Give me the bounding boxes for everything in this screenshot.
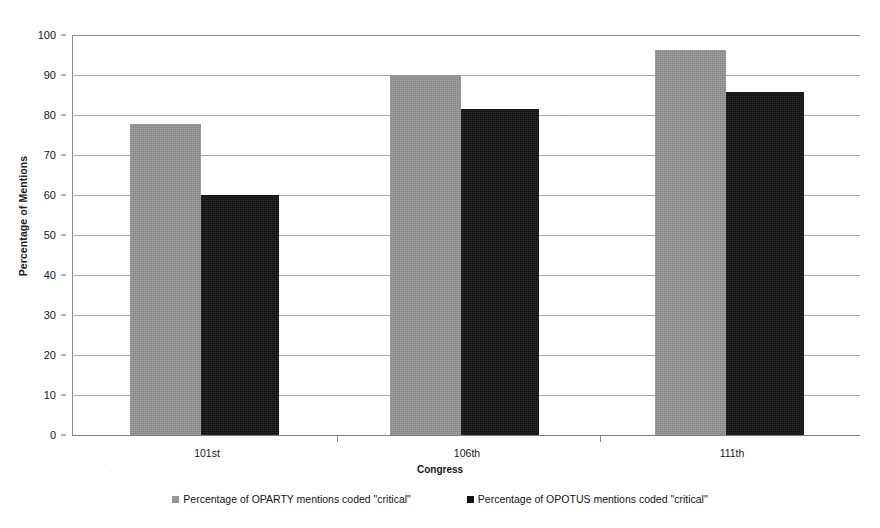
y-tick-label-20: 20 [44,349,56,361]
y-tick-label-80: 80 [44,109,56,121]
gridline-90 [72,75,860,76]
x-tick-mark-2 [600,436,601,442]
y-tick-mark-50 [61,235,66,236]
bar-111th-series-1 [655,50,726,435]
gridline-100 [72,35,860,36]
bar-111th-series-2 [726,92,804,435]
y-tick-label-30: 30 [44,309,56,321]
bar-chart: Percentage of Mentions 01020304050607080… [0,0,880,528]
x-category-label-101st: 101st [194,447,220,459]
bar-101st-series-2 [201,195,279,435]
legend-label-2: Percentage of OPOTUS mentions coded "cri… [478,493,708,505]
y-axis-tick-labels: 0102030405060708090100 [0,35,66,435]
y-tick-mark-80 [61,115,66,116]
plot-area [72,35,860,435]
y-tick-label-40: 40 [44,269,56,281]
y-tick-mark-10 [61,395,66,396]
legend-item-1: Percentage of OPARTY mentions coded "cri… [172,493,410,505]
chart-legend: Percentage of OPARTY mentions coded "cri… [0,493,880,505]
legend-label-1: Percentage of OPARTY mentions coded "cri… [183,493,410,505]
x-category-label-111th: 111th [720,447,745,459]
y-tick-mark-40 [61,275,66,276]
y-tick-label-90: 90 [44,69,56,81]
x-axis-line [72,435,860,436]
legend-swatch-gray-icon [172,496,179,503]
bar-106th-series-1 [390,75,461,435]
y-tick-label-60: 60 [44,189,56,201]
y-tick-label-0: 0 [50,429,56,441]
y-tick-label-10: 10 [44,389,56,401]
x-tick-mark-1 [337,436,338,442]
y-tick-mark-60 [61,195,66,196]
y-tick-mark-20 [61,355,66,356]
y-tick-mark-100 [61,35,66,36]
bar-101st-series-1 [130,124,201,435]
y-tick-label-100: 100 [38,29,56,41]
y-tick-mark-30 [61,315,66,316]
y-tick-mark-90 [61,75,66,76]
y-tick-mark-70 [61,155,66,156]
legend-swatch-black-icon [467,496,474,503]
y-tick-label-70: 70 [44,149,56,161]
bar-106th-series-2 [461,109,539,435]
y-tick-label-50: 50 [44,229,56,241]
x-category-label-106th: 106th [454,447,480,459]
y-tick-mark-0 [61,435,66,436]
x-axis-title: Congress [0,464,880,475]
legend-item-2: Percentage of OPOTUS mentions coded "cri… [467,493,708,505]
